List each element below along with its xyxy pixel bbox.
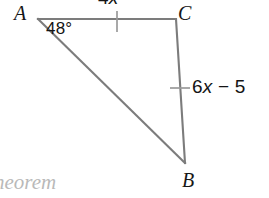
side-cb-measure-suffix: − 5 — [212, 76, 245, 97]
side-cb-line — [176, 19, 185, 163]
side-ac-measure-coefficient: 4 — [98, 0, 109, 8]
angle-measure-label-a: 48° — [46, 20, 72, 37]
vertex-label-a: A — [14, 3, 26, 23]
side-cb-measure-coefficient: 6 — [192, 76, 203, 97]
geometry-figure: A C B 4x 6x − 5 48° heorem — [0, 0, 269, 198]
caption-text-fragment: heorem — [0, 170, 56, 195]
vertex-label-c: C — [178, 3, 191, 23]
side-ab-line — [38, 19, 185, 163]
triangle-drawing — [0, 0, 269, 198]
side-ac-measure-variable: x — [109, 0, 119, 8]
side-ac-measure-label: 4x — [98, 0, 118, 7]
side-cb-measure-label: 6x − 5 — [192, 77, 246, 96]
vertex-label-b: B — [182, 170, 194, 190]
